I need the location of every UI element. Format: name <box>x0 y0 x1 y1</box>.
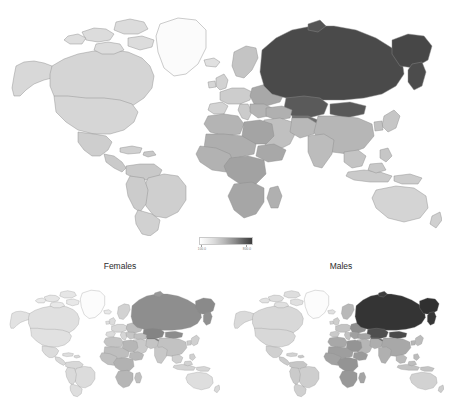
colorbar-label-min: 100.0 <box>198 247 206 251</box>
country-peru-bolivia <box>66 367 77 385</box>
country-mongolia <box>389 331 407 339</box>
country-iceland <box>204 58 220 67</box>
region-korea <box>411 340 415 345</box>
island-madagascar <box>267 186 282 208</box>
country-mexico <box>78 132 112 156</box>
country-philippines <box>380 148 392 162</box>
country-canada-arctic-5 <box>259 298 270 303</box>
country-brazil <box>297 366 318 387</box>
caption-males: Males <box>330 261 353 271</box>
region-caribbean <box>63 353 74 357</box>
country-canada-arctic-1 <box>268 295 284 302</box>
country-united-kingdom <box>110 318 116 326</box>
island-hispaniola <box>74 355 80 358</box>
region-western-europe <box>112 324 128 332</box>
country-india <box>379 347 392 364</box>
country-canada-arctic-2 <box>114 19 148 34</box>
region-southeast-asia <box>172 355 183 364</box>
country-peru-bolivia <box>126 176 148 212</box>
region-southeast-asia <box>396 355 407 364</box>
island-hispaniola <box>143 151 156 157</box>
region-western-europe <box>220 88 252 104</box>
country-russia <box>131 294 201 330</box>
country-brazil <box>73 366 94 387</box>
country-india <box>155 347 168 364</box>
country-russia <box>260 26 404 100</box>
country-canada-arctic-2 <box>60 291 77 298</box>
world-map-males-svg <box>232 276 444 404</box>
island-new-guinea <box>421 366 435 371</box>
country-iceland <box>328 310 336 314</box>
country-mongolia <box>330 102 366 118</box>
country-russia <box>355 294 425 330</box>
country-canada-arctic-5 <box>64 34 86 44</box>
region-indonesia <box>173 364 195 370</box>
country-brazil <box>142 174 186 218</box>
caption-females: Females <box>104 261 137 271</box>
country-new-zealand <box>438 385 444 393</box>
country-mongolia <box>165 331 183 339</box>
region-southern-africa <box>115 370 133 388</box>
region-central-africa <box>114 358 135 372</box>
landmasses-females <box>10 290 220 396</box>
region-southeast-asia <box>344 150 366 168</box>
country-morocco-algeria <box>328 337 348 348</box>
region-caribbean <box>120 146 142 154</box>
landmasses-total <box>12 18 442 236</box>
region-korea <box>187 340 191 345</box>
world-map-total-svg <box>8 4 442 236</box>
region-scandinavia <box>232 46 258 78</box>
country-japan <box>382 110 400 132</box>
country-new-zealand <box>430 212 442 228</box>
world-map-females-svg <box>8 276 220 404</box>
country-ireland <box>330 321 334 324</box>
island-new-guinea <box>197 366 211 371</box>
country-united-kingdom <box>334 318 340 326</box>
region-central-america <box>55 357 66 366</box>
country-canada-arctic-2 <box>284 291 301 298</box>
country-canada-arctic-1 <box>44 295 60 302</box>
colorbar-gradient <box>199 237 253 245</box>
country-russia-kamchatka <box>408 62 426 90</box>
island-hispaniola <box>298 355 304 358</box>
country-alaska <box>12 61 56 96</box>
region-central-africa <box>224 156 266 184</box>
country-greenland <box>156 18 206 76</box>
region-indonesia <box>397 364 419 370</box>
country-alaska <box>234 311 255 328</box>
region-central-america <box>104 154 126 172</box>
colorbar-label-max: 800.0 <box>243 247 251 251</box>
region-caribbean <box>287 353 298 357</box>
country-morocco-algeria <box>204 114 244 136</box>
country-australia <box>372 186 428 222</box>
region-iberia <box>106 331 116 337</box>
country-philippines <box>190 354 196 361</box>
country-russia-kamchatka <box>203 312 212 326</box>
country-australia <box>186 372 213 390</box>
island-madagascar <box>135 372 142 383</box>
country-canada-arctic-1 <box>82 28 114 42</box>
region-indonesia <box>346 170 392 182</box>
region-central-america <box>279 357 290 366</box>
region-iberia <box>208 102 228 114</box>
country-australia <box>410 372 437 390</box>
choropleth-figure: 100.0 800.0 Females Males <box>0 0 450 409</box>
region-central-africa <box>338 358 359 372</box>
region-western-europe <box>336 324 352 332</box>
region-korea <box>374 121 383 131</box>
landmasses-males <box>234 290 444 396</box>
country-japan <box>191 335 200 346</box>
country-greenland <box>80 290 104 318</box>
country-united-states <box>254 328 295 347</box>
country-russia-northeast <box>392 34 432 68</box>
region-scandinavia <box>341 304 354 320</box>
world-map-males <box>232 276 444 404</box>
region-scandinavia <box>117 304 130 320</box>
country-ireland <box>106 321 110 324</box>
world-map-total <box>8 4 442 236</box>
region-iberia <box>330 331 340 337</box>
country-canada-arctic-4 <box>128 36 154 50</box>
country-iceland <box>104 310 112 314</box>
region-southern-africa <box>228 182 264 218</box>
country-russia-kamchatka <box>427 312 436 326</box>
